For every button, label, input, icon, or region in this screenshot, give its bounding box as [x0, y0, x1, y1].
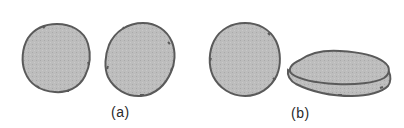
panel-b-cell-disc: [288, 51, 391, 96]
panel-a-cell-2: [105, 23, 174, 96]
figure-canvas: [0, 0, 404, 128]
panel-b-label: (b): [291, 105, 310, 121]
panel-b-cell-round: [210, 23, 280, 96]
panel-a-label: (a): [111, 104, 130, 120]
panel-a-cell-1: [23, 24, 90, 92]
